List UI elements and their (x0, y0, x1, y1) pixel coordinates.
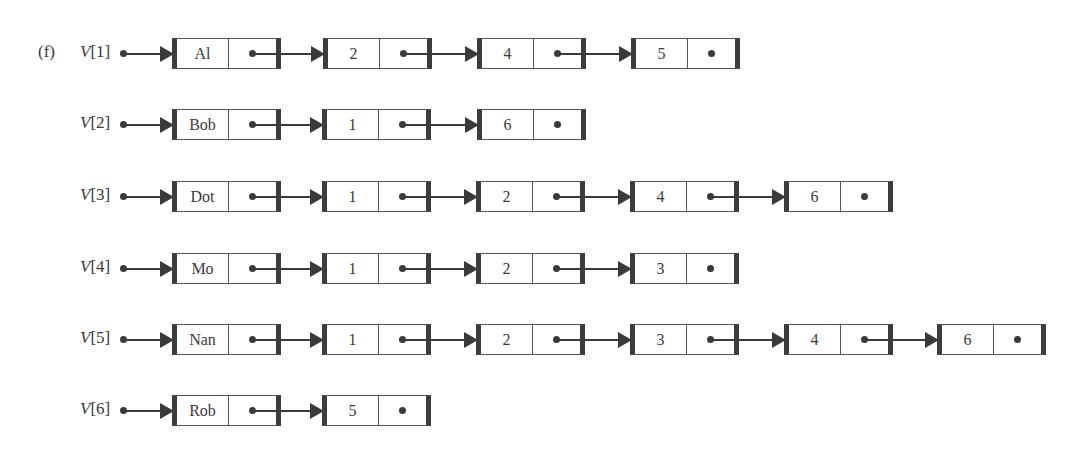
list-node: 3 (630, 253, 739, 284)
node-data-cell: 4 (635, 182, 687, 211)
node-data-cell: 3 (635, 254, 687, 283)
pointer-dot-icon (708, 50, 715, 57)
pointer-arrow (124, 124, 172, 126)
node-pointer-cell (994, 325, 1041, 354)
node-data-cell: 6 (789, 182, 841, 211)
node-data-cell: 1 (327, 325, 379, 354)
next-pointer-arrow (558, 196, 630, 198)
pointer-dot-icon (1014, 336, 1021, 343)
pointer-dot-icon (861, 193, 868, 200)
node-data-cell: 3 (635, 325, 687, 354)
next-pointer-arrow (254, 196, 322, 198)
next-pointer-arrow (405, 53, 477, 55)
list-head-label: V[3] (80, 185, 110, 205)
figure-label: (f) (38, 42, 55, 62)
node-data-cell: Bob (177, 110, 229, 139)
node-pointer-cell (687, 254, 734, 283)
next-pointer-arrow (254, 53, 323, 55)
next-pointer-arrow (404, 268, 476, 270)
node-data-cell: Nan (177, 325, 229, 354)
node-data-cell: 2 (328, 39, 380, 68)
node-pointer-cell (688, 39, 735, 68)
next-pointer-arrow (712, 196, 784, 198)
node-pointer-cell (841, 182, 888, 211)
list-head-label: V[4] (80, 257, 110, 277)
node-data-cell: 6 (942, 325, 994, 354)
pointer-dot-icon (399, 407, 406, 414)
list-head-label: V[1] (80, 42, 110, 62)
node-data-cell: 4 (789, 325, 841, 354)
pointer-arrow (124, 53, 172, 55)
node-data-cell: 1 (327, 110, 379, 139)
next-pointer-arrow (404, 124, 477, 126)
node-data-cell: 6 (482, 110, 534, 139)
next-pointer-arrow (254, 339, 322, 341)
node-data-cell: 5 (636, 39, 688, 68)
node-data-cell: 5 (327, 396, 379, 425)
node-data-cell: 1 (327, 182, 379, 211)
next-pointer-arrow (254, 410, 322, 412)
pointer-arrow (124, 196, 172, 198)
next-pointer-arrow (404, 196, 476, 198)
next-pointer-arrow (404, 339, 476, 341)
list-node: 5 (631, 38, 740, 69)
next-pointer-arrow (712, 339, 784, 341)
next-pointer-arrow (254, 268, 322, 270)
next-pointer-arrow (559, 53, 631, 55)
pointer-arrow (124, 410, 172, 412)
node-data-cell: Rob (177, 396, 229, 425)
next-pointer-arrow (254, 124, 322, 126)
next-pointer-arrow (558, 268, 630, 270)
pointer-dot-icon (707, 265, 714, 272)
next-pointer-arrow (558, 339, 630, 341)
next-pointer-arrow (866, 339, 937, 341)
list-node: 6 (937, 324, 1046, 355)
list-node: 6 (784, 181, 893, 212)
node-data-cell: 2 (481, 325, 533, 354)
pointer-arrow (124, 339, 172, 341)
node-pointer-cell (379, 396, 426, 425)
node-data-cell: Al (177, 39, 229, 68)
node-data-cell: 2 (481, 182, 533, 211)
node-data-cell: 1 (327, 254, 379, 283)
list-node: 5 (322, 395, 431, 426)
list-head-label: V[2] (80, 113, 110, 133)
node-data-cell: 2 (481, 254, 533, 283)
list-head-label: V[6] (80, 399, 110, 419)
pointer-arrow (124, 268, 172, 270)
node-pointer-cell (534, 110, 581, 139)
pointer-dot-icon (554, 121, 561, 128)
list-node: 6 (477, 109, 586, 140)
list-head-label: V[5] (80, 328, 110, 348)
node-data-cell: 4 (482, 39, 534, 68)
node-data-cell: Mo (177, 254, 229, 283)
node-data-cell: Dot (177, 182, 229, 211)
